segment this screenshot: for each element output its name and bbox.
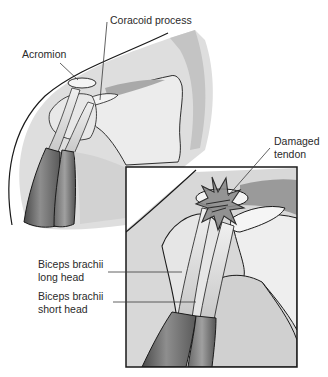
label-biceps-short-head-line1: Biceps brachii — [38, 290, 103, 303]
label-biceps-long-head-line1: Biceps brachii — [38, 258, 103, 271]
label-biceps-short-head-line2: short head — [38, 303, 103, 316]
label-damaged-tendon: Damaged tendon — [274, 135, 320, 160]
label-acromion: Acromion — [22, 48, 66, 61]
label-coracoid-process: Coracoid process — [110, 14, 192, 27]
label-biceps-long-head: Biceps brachii long head — [38, 258, 103, 283]
inset-view — [126, 167, 297, 367]
label-biceps-short-head: Biceps brachii short head — [38, 290, 103, 315]
label-damaged-tendon-line2: tendon — [274, 148, 320, 161]
label-damaged-tendon-line1: Damaged — [274, 135, 320, 148]
leader-acromion — [60, 63, 78, 80]
label-biceps-long-head-line2: long head — [38, 271, 103, 284]
acromion-bone — [68, 78, 96, 88]
